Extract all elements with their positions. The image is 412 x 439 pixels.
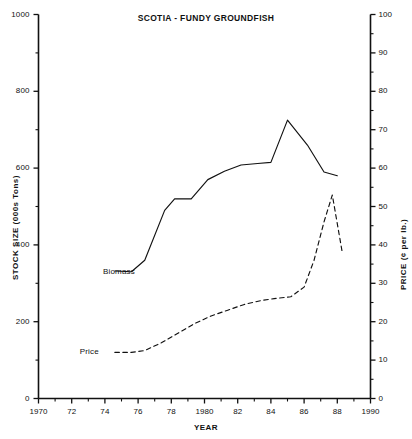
x-axis-tick-label: 78: [154, 408, 188, 416]
x-axis-tick-label: 76: [121, 408, 155, 416]
y-axis-tick-label: 800: [0, 87, 30, 95]
chart-plot-svg: [0, 0, 412, 439]
y-axis-tick-label: 0: [0, 395, 30, 403]
y-axis-tick-label: 1000: [0, 11, 30, 19]
series-label-price: Price: [80, 348, 99, 356]
series-line-biomass: [115, 120, 337, 272]
y-axis-tick-label: 400: [0, 241, 30, 249]
axes-group: [39, 15, 371, 399]
y2-axis-tick-label: 100: [379, 11, 409, 19]
series-group: [115, 120, 342, 352]
x-axis-tick-label: 84: [254, 408, 288, 416]
x-axis-tick-label: 82: [221, 408, 255, 416]
y2-axis-tick-label: 30: [379, 279, 409, 287]
ticks-group: [34, 15, 376, 404]
x-axis-tick-label: 72: [55, 408, 89, 416]
x-axis-tick-label: 86: [287, 408, 321, 416]
chart-container: SCOTIA - FUNDY GROUNDFISH STOCK SIZE (00…: [0, 0, 412, 439]
x-axis-tick-label: 1970: [22, 408, 56, 416]
chart-title: SCOTIA - FUNDY GROUNDFISH: [0, 14, 412, 23]
y-axis-title: STOCK SIZE (000s Tons): [12, 175, 20, 280]
x-axis-tick-label: 74: [88, 408, 122, 416]
y-axis-tick-label: 600: [0, 164, 30, 172]
y2-axis-tick-label: 80: [379, 87, 409, 95]
y2-axis-tick-label: 10: [379, 356, 409, 364]
x-axis-tick-label: 1980: [188, 408, 222, 416]
series-line-price: [115, 195, 342, 352]
y2-axis-tick-label: 60: [379, 164, 409, 172]
x-axis-tick-label: 1990: [354, 408, 388, 416]
x-axis-tick-label: 88: [320, 408, 354, 416]
x-axis-title: YEAR: [0, 424, 412, 432]
y2-axis-tick-label: 90: [379, 49, 409, 57]
y-axis-tick-label: 200: [0, 318, 30, 326]
series-label-biomass: Biomass: [103, 268, 135, 276]
y2-axis-tick-label: 20: [379, 318, 409, 326]
y2-axis-tick-label: 70: [379, 126, 409, 134]
y2-axis-tick-label: 50: [379, 203, 409, 211]
y2-axis-tick-label: 40: [379, 241, 409, 249]
y2-axis-tick-label: 0: [379, 395, 409, 403]
